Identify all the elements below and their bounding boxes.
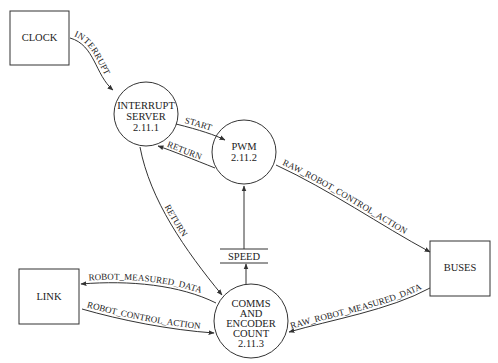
interrupt-server-line1: INTERRUPT xyxy=(117,100,175,111)
flow-raw-robot-measured-data: RAW_ROBOT_MEASURED_DATA xyxy=(289,281,430,332)
terminator-clock[interactable]: CLOCK xyxy=(10,11,69,65)
flow-interrupt: INTERRUPT xyxy=(70,29,113,90)
speed-label: SPEED xyxy=(228,251,261,262)
flow-return-from-comms: RETURN xyxy=(140,147,222,295)
clock-label: CLOCK xyxy=(22,32,58,43)
terminator-buses[interactable]: BUSES xyxy=(430,241,490,296)
rrmd-flow-label: RAW_ROBOT_MEASURED_DATA xyxy=(289,281,423,330)
svg-text:RAW_ROBOT_MEASURED_DATA: RAW_ROBOT_MEASURED_DATA xyxy=(289,281,423,330)
data-flow-diagram: CLOCK LINK BUSES INTERRUPT SERVER 2.11.1… xyxy=(0,0,498,363)
flow-robot-measured-data: ROBOT_MEASURED_DATA xyxy=(81,272,216,303)
process-pwm[interactable]: PWM 2.11.2 xyxy=(212,120,276,184)
store-speed[interactable]: SPEED xyxy=(220,249,268,263)
interrupt-server-id: 2.11.1 xyxy=(133,122,159,133)
comms-id: 2.11.3 xyxy=(238,338,264,349)
flow-robot-control-action: ROBOT_CONTROL_ACTION xyxy=(82,299,214,333)
rrca-flow-label: RAW_ROBOT_CONTROL_ACTION xyxy=(281,157,409,236)
flow-raw-robot-control-action: RAW_ROBOT_CONTROL_ACTION xyxy=(276,157,430,252)
svg-text:RAW_ROBOT_CONTROL_ACTION: RAW_ROBOT_CONTROL_ACTION xyxy=(281,157,409,236)
interrupt-server-line2: SERVER xyxy=(126,111,165,122)
buses-label: BUSES xyxy=(444,262,477,273)
interrupt-flow-label: INTERRUPT xyxy=(73,29,112,77)
flow-return-from-pwm: RETURN xyxy=(158,139,215,168)
terminator-link[interactable]: LINK xyxy=(19,269,79,324)
process-comms[interactable]: COMMS AND ENCODER COUNT 2.11.3 xyxy=(214,284,288,358)
process-interrupt-server[interactable]: INTERRUPT SERVER 2.11.1 xyxy=(114,82,178,146)
pwm-line1: PWM xyxy=(231,141,257,152)
flow-start: START xyxy=(176,115,225,140)
link-label: LINK xyxy=(36,291,61,302)
svg-text:INTERRUPT: INTERRUPT xyxy=(73,29,112,77)
pwm-id: 2.11.2 xyxy=(231,152,257,163)
